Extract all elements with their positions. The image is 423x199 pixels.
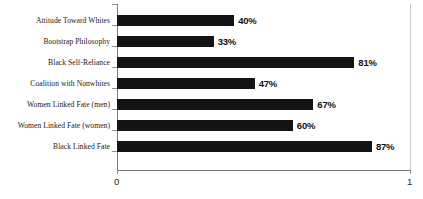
category-label: Coalition with Nonwhites <box>2 78 110 89</box>
category-label-wrap: Black Linked Fate <box>0 141 110 152</box>
y-axis-tick <box>112 4 117 5</box>
bar <box>117 99 313 110</box>
bar <box>117 141 372 152</box>
bar-value-label: 33% <box>218 36 236 47</box>
category-label: Women Linked Fate (men) <box>2 99 110 110</box>
bar-chart: Attitude Toward Whites 40% Bootstrap Phi… <box>0 0 423 199</box>
x-axis-tick <box>410 170 411 174</box>
bar-value-label: 67% <box>317 99 335 110</box>
bar <box>117 78 255 89</box>
category-label: Black Self-Reliance <box>2 57 110 68</box>
x-axis-tick-label-min: 0 <box>114 176 119 188</box>
category-label: Attitude Toward Whites <box>2 15 110 26</box>
bar-value-label: 87% <box>376 141 394 152</box>
bar-value-label: 81% <box>358 57 376 68</box>
category-label: Black Linked Fate <box>2 141 110 152</box>
category-label: Women Linked Fate (women) <box>2 120 110 131</box>
category-label-wrap: Women Linked Fate (men) <box>0 99 110 110</box>
bar <box>117 120 293 131</box>
bar <box>117 57 354 68</box>
category-label-wrap: Black Self-Reliance <box>0 57 110 68</box>
category-label-wrap: Women Linked Fate (women) <box>0 120 110 131</box>
bar <box>117 36 214 47</box>
x-axis-tick <box>117 170 118 174</box>
bar-value-label: 40% <box>238 15 256 26</box>
category-label-wrap: Bootstrap Philosophy <box>0 36 110 47</box>
x-axis-max-gridline <box>410 4 411 171</box>
category-label: Bootstrap Philosophy <box>2 36 110 47</box>
x-axis-line <box>117 170 411 171</box>
bar-value-label: 60% <box>297 120 315 131</box>
bar-value-label: 47% <box>259 78 277 89</box>
category-label-wrap: Attitude Toward Whites <box>0 15 110 26</box>
x-axis-tick-label-max: 1 <box>407 176 412 188</box>
category-label-wrap: Coalition with Nonwhites <box>0 78 110 89</box>
bar <box>117 15 234 26</box>
